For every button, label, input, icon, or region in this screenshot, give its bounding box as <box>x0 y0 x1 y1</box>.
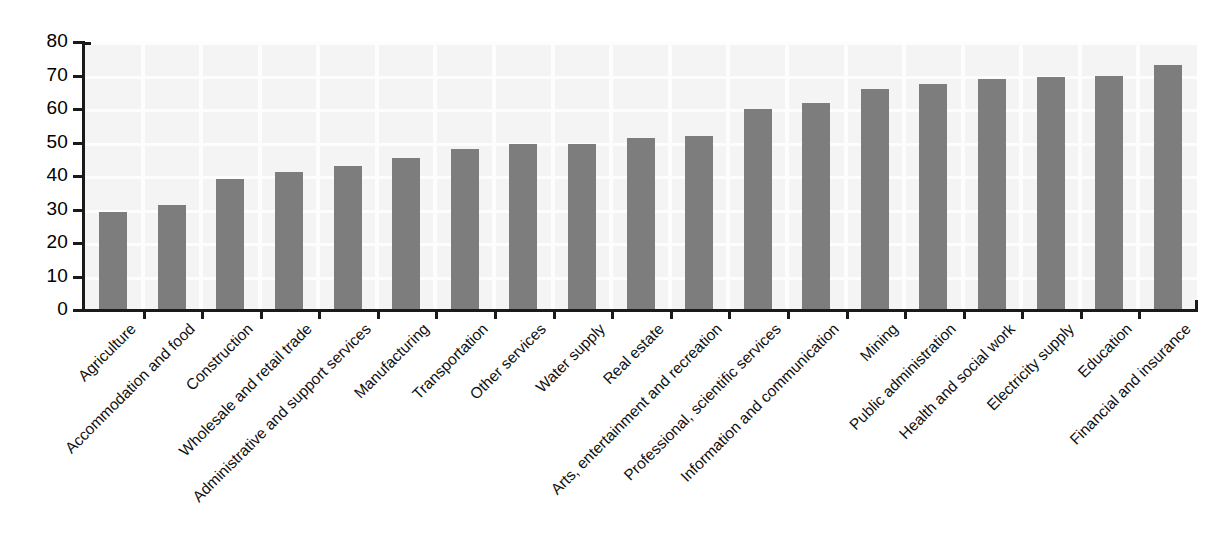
bar <box>1154 65 1182 310</box>
gridline-vertical <box>258 42 262 310</box>
x-axis-category-label: Health and social work <box>896 320 1019 443</box>
y-axis-tick-label: 60 <box>30 97 68 119</box>
y-axis-tick-label: 70 <box>30 64 68 86</box>
bar-chart: 01020304050607080 AgricultureAccommodati… <box>0 0 1226 547</box>
y-axis-tick-label: 40 <box>30 164 68 186</box>
bar <box>392 158 420 310</box>
bar <box>509 144 537 310</box>
bar <box>1037 77 1065 310</box>
bar <box>216 179 244 310</box>
x-axis-line <box>82 309 1198 312</box>
gridline-vertical <box>726 42 730 310</box>
gridline-vertical <box>492 42 496 310</box>
gridline-vertical <box>961 42 965 310</box>
bar <box>919 84 947 310</box>
gridline-horizontal <box>84 42 1197 45</box>
x-axis-category-label: Public administration <box>846 320 960 434</box>
bar <box>99 212 127 310</box>
y-axis-tick-label: 50 <box>30 131 68 153</box>
y-axis-tick-label: 20 <box>30 231 68 253</box>
x-axis-category-label: Education <box>1074 320 1135 381</box>
gridline-vertical <box>199 42 203 310</box>
bar <box>861 89 889 310</box>
bar <box>158 205 186 310</box>
bar <box>802 103 830 310</box>
gridline-vertical <box>433 42 437 310</box>
gridline-vertical <box>902 42 906 310</box>
gridline-vertical <box>785 42 789 310</box>
gridline-vertical <box>551 42 555 310</box>
gridline-horizontal <box>84 109 1197 112</box>
bar <box>744 109 772 310</box>
bar <box>685 136 713 310</box>
gridline-vertical <box>375 42 379 310</box>
gridline-vertical <box>668 42 672 310</box>
bar <box>627 138 655 310</box>
y-axis-tick-label: 10 <box>30 265 68 287</box>
y-axis-top-cap <box>82 42 91 45</box>
bar <box>334 166 362 310</box>
bar <box>978 79 1006 310</box>
y-axis-tick-label: 80 <box>30 30 68 52</box>
bar <box>451 149 479 310</box>
gridline-vertical <box>316 42 320 310</box>
gridline-horizontal <box>84 76 1197 79</box>
gridline-vertical <box>609 42 613 310</box>
gridline-vertical <box>1019 42 1023 310</box>
gridline-vertical <box>141 42 145 310</box>
x-axis-category-label: Mining <box>857 320 902 365</box>
y-axis-tick-label: 0 <box>30 298 68 320</box>
bar <box>275 172 303 310</box>
gridline-vertical <box>844 42 848 310</box>
gridline-vertical <box>1136 42 1140 310</box>
gridline-vertical <box>1078 42 1082 310</box>
bar <box>568 144 596 310</box>
y-axis-tick-label: 30 <box>30 198 68 220</box>
bar <box>1095 76 1123 311</box>
x-axis-right-tick <box>1195 300 1198 312</box>
y-axis-line <box>82 42 85 312</box>
x-axis-category-label: Financial and insurance <box>1066 320 1194 448</box>
